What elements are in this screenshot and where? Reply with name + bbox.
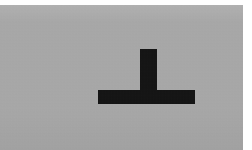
symbol-vertical-stem	[140, 49, 157, 96]
symbol-horizontal-base	[98, 90, 195, 104]
perpendicular-symbol	[0, 5, 243, 150]
image-description: A photographic gray rectangular plate sh…	[0, 0, 1, 1]
gray-plate	[0, 5, 243, 150]
image-canvas: A photographic gray rectangular plate sh…	[0, 0, 252, 150]
